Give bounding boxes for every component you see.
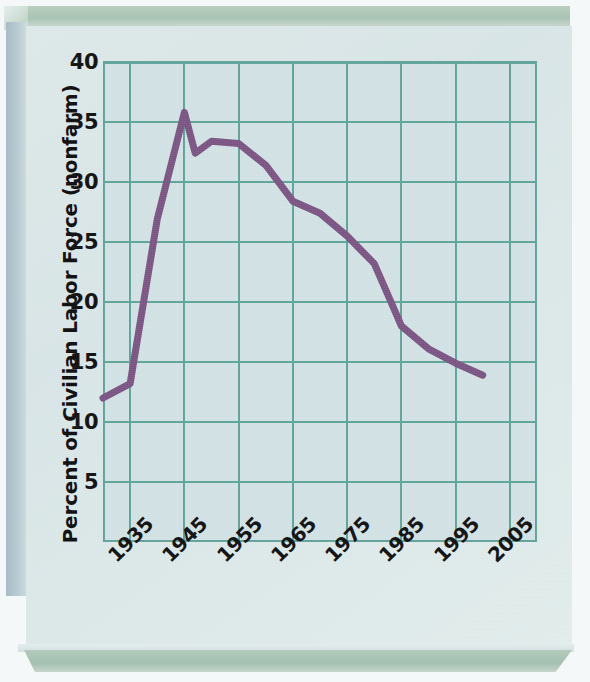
figure-frame: Percent of Civilian Labor Force (nonfarm…: [0, 0, 590, 682]
y-axis-tick-30: 30: [52, 170, 98, 194]
y-axis-tick-labels: 510152025303540: [48, 62, 98, 542]
frame-bevel-bottom: [24, 650, 572, 672]
frame-bevel-left: [6, 22, 28, 596]
y-axis-tick-5: 5: [52, 470, 98, 494]
chart-card: Percent of Civilian Labor Force (nonfarm…: [26, 26, 572, 650]
data-series-line: [103, 62, 537, 542]
plot-region: [103, 62, 537, 542]
y-axis-tick-25: 25: [52, 230, 98, 254]
x-axis-tick-labels: 19351945195519651975198519952005: [103, 544, 583, 634]
y-axis-tick-20: 20: [52, 290, 98, 314]
y-axis-tick-10: 10: [52, 410, 98, 434]
y-axis-tick-35: 35: [52, 110, 98, 134]
y-axis-tick-40: 40: [52, 50, 98, 74]
frame-bevel-top: [16, 6, 570, 28]
y-axis-tick-15: 15: [52, 350, 98, 374]
